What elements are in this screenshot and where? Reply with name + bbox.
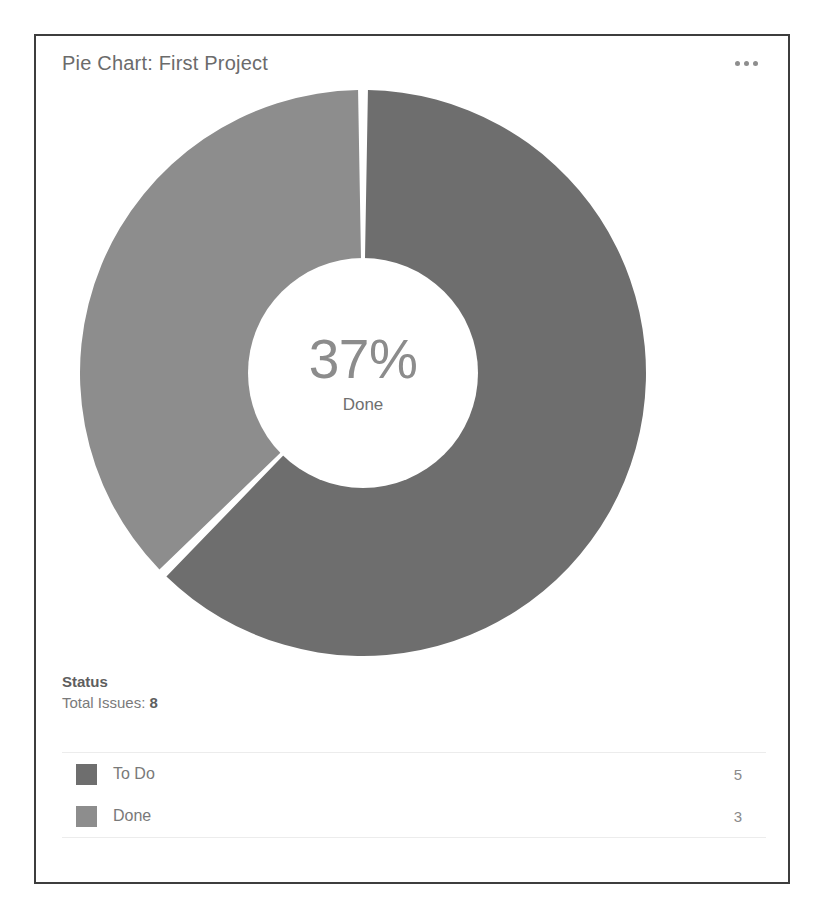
page-title: Pie Chart: First Project xyxy=(62,52,268,75)
legend-color-swatch xyxy=(76,806,97,827)
donut-center: 37% Done xyxy=(248,258,478,488)
pie-chart-gadget-card: Pie Chart: First Project 37% Done Status xyxy=(34,34,790,884)
total-issues: Total Issues: 8 xyxy=(62,692,762,714)
legend-list: To Do5Done3 xyxy=(62,752,766,838)
donut-percent-value: 37% xyxy=(309,332,418,387)
legend-value: 3 xyxy=(734,808,742,825)
legend-row[interactable]: Done3 xyxy=(62,795,766,837)
ellipsis-dot xyxy=(735,61,740,66)
ellipsis-icon[interactable] xyxy=(731,55,762,72)
legend-divider-bottom xyxy=(62,837,766,838)
legend-label: To Do xyxy=(113,765,734,783)
total-issues-prefix: Total Issues: xyxy=(62,694,150,711)
gadget-header: Pie Chart: First Project xyxy=(36,36,788,90)
legend-value: 5 xyxy=(734,766,742,783)
legend-label: Done xyxy=(113,807,734,825)
status-summary: Status Total Issues: 8 xyxy=(62,672,762,714)
donut-center-label: Done xyxy=(343,395,384,415)
total-issues-value: 8 xyxy=(150,694,158,711)
donut-chart: 37% Done xyxy=(80,90,646,656)
legend-row[interactable]: To Do5 xyxy=(62,753,766,795)
chart-area: 37% Done xyxy=(36,86,788,664)
screenshot-root: Pie Chart: First Project 37% Done Status xyxy=(0,0,818,918)
legend-color-swatch xyxy=(76,764,97,785)
ellipsis-dot xyxy=(744,61,749,66)
ellipsis-dot xyxy=(753,61,758,66)
status-heading: Status xyxy=(62,672,762,692)
